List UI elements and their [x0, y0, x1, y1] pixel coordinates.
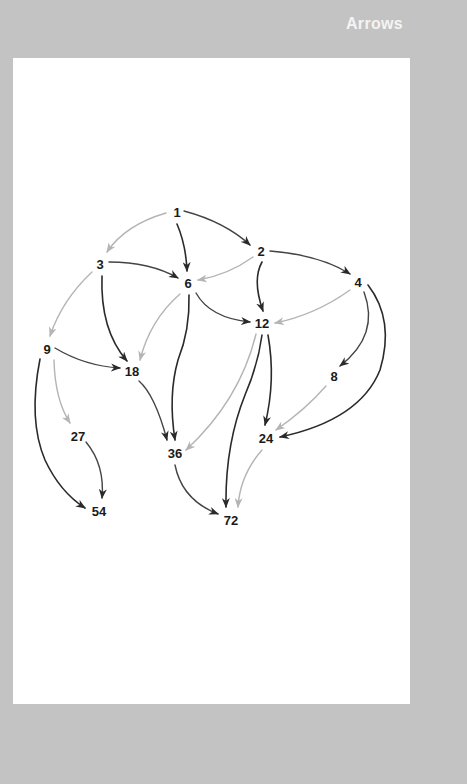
- node-8: 8: [330, 369, 337, 384]
- node-54: 54: [92, 504, 107, 519]
- node-4: 4: [354, 275, 362, 290]
- node-36: 36: [168, 446, 182, 461]
- node-1: 1: [173, 205, 180, 220]
- edge-12-to-24: [265, 335, 271, 425]
- edge-27-to-54: [86, 442, 102, 498]
- node-72: 72: [224, 513, 238, 528]
- edge-6-to-18: [140, 294, 180, 360]
- node-3: 3: [96, 257, 103, 272]
- node-9: 9: [43, 342, 50, 357]
- node-27: 27: [71, 429, 85, 444]
- edge-36-to-72: [175, 465, 218, 514]
- edge-4-to-24: [280, 285, 385, 437]
- node-12: 12: [255, 316, 269, 331]
- edge-3-to-9: [50, 272, 92, 336]
- edge-2-to-4: [270, 251, 350, 274]
- edge-2-to-6: [198, 257, 253, 280]
- edge-9-to-27: [54, 360, 70, 423]
- edge-6-to-36: [172, 295, 189, 440]
- edge-8-to-24: [276, 386, 326, 430]
- divisibility-arrow-diagram: 1 2 3 6 4 12 9 18 8 27 24 36 54 72: [0, 0, 467, 784]
- edge-3-to-18: [102, 276, 127, 361]
- node-24: 24: [259, 431, 274, 446]
- edge-1-to-6: [177, 224, 187, 271]
- node-6: 6: [184, 276, 191, 291]
- edge-4-to-8: [340, 292, 369, 366]
- node-2: 2: [257, 244, 264, 259]
- edge-9-to-18: [55, 348, 120, 368]
- edge-1-to-3: [107, 213, 166, 252]
- edge-18-to-36: [139, 381, 167, 440]
- node-18: 18: [125, 364, 139, 379]
- edge-2-to-12: [257, 262, 263, 311]
- edge-4-to-12: [275, 290, 350, 323]
- edge-6-to-12: [196, 293, 250, 322]
- edge-1-to-2: [184, 211, 250, 245]
- edge-24-to-72: [238, 450, 262, 507]
- edge-3-to-6: [109, 262, 178, 278]
